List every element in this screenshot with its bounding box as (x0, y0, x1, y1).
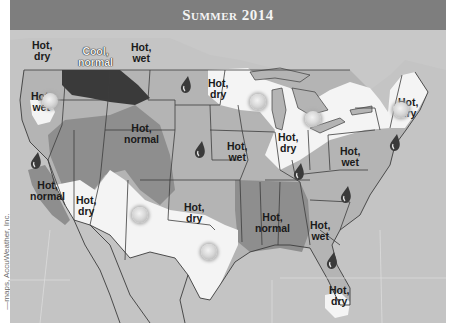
region-label-hot-normal-rockies: Hot, normal (124, 123, 159, 145)
sun-icon (305, 111, 321, 127)
title-bar: Summer 2014 (10, 0, 446, 30)
region-label-hot-dry-southern-plains: Hot, dry (184, 202, 204, 224)
region-label-hot-normal-california: Hot, normal (30, 180, 65, 202)
map-title: Summer 2014 (182, 7, 274, 24)
raindrop-icon (326, 252, 338, 270)
sun-icon (250, 94, 266, 110)
raindrop-icon (180, 76, 192, 94)
region-label-hot-wet-central-plains: Hot, wet (227, 141, 247, 163)
region-label-hot-wet-northern-plains: Hot, wet (131, 42, 151, 64)
region-label-hot-wet-mid-atlantic: Hot, wet (340, 146, 360, 168)
region-label-hot-dry-upper-midwest: Hot, dry (208, 78, 228, 100)
raindrop-icon (194, 141, 206, 159)
weather-map: Summer 2014 (10, 0, 446, 323)
region-label-hot-dry-great-lakes: Hot, dry (278, 132, 298, 154)
region-label-hot-wet-southeast: Hot, wet (310, 220, 330, 242)
us-forecast-map (10, 30, 446, 323)
region-label-hot-dry-southwest: Hot, dry (76, 195, 96, 217)
sun-icon (201, 244, 217, 260)
region-label-hot-normal-lower-mississippi: Hot, normal (255, 212, 290, 234)
raindrop-icon (389, 134, 401, 152)
sun-icon (393, 102, 409, 118)
region-label-hot-dry-northwest: Hot, dry (32, 40, 52, 62)
raindrop-icon (340, 186, 352, 204)
sun-icon (42, 93, 58, 109)
sun-icon (132, 207, 148, 223)
region-label-cool-normal: Cool, normal (78, 46, 113, 68)
raindrop-icon (30, 152, 42, 170)
region-label-hot-dry-south-florida: Hot, dry (329, 285, 349, 307)
raindrop-icon (293, 163, 305, 181)
